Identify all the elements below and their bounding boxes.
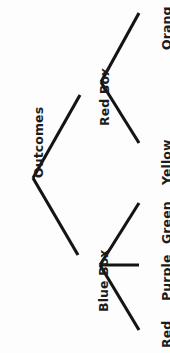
node-label-yellow: Yellow [161,139,170,185]
node-label-blue-box: Blue Box [98,249,111,312]
edge-outcomes-to-blue-box [33,178,78,255]
node-label-orange: Orang [161,6,170,50]
tree-diagram-canvas: Outcomes Red Box Blue Box Orang Yellow G… [0,0,170,353]
node-label-purple: Purple [161,254,170,301]
node-label-red-box: Red Box [99,68,112,126]
node-label-outcomes: Outcomes [33,107,46,178]
node-label-red: Red [161,321,170,348]
node-label-green: Green [161,201,170,244]
tree-edges-svg [0,0,170,353]
